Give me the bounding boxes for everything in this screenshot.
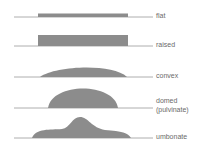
label-convex: convex [156, 72, 178, 80]
label-raised: raised [156, 41, 175, 49]
flat-form [14, 14, 153, 18]
label-umbonate: umbonate [156, 133, 187, 141]
domed-form [14, 89, 153, 109]
label-pulvinate: (pulvinate) [156, 106, 189, 114]
label-flat: flat [156, 12, 165, 20]
raised-form [14, 35, 153, 46]
label-domed: domed [156, 97, 177, 105]
umbonate-form [14, 117, 153, 138]
convex-form [14, 68, 153, 77]
